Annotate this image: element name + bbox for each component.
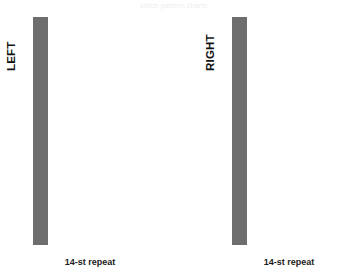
chart-cell-filled [47, 88, 48, 96]
chart-row [34, 182, 48, 190]
chart-row [233, 57, 247, 65]
chart-row [34, 190, 48, 198]
chart-row [233, 33, 247, 41]
chart-row [34, 221, 48, 229]
chart-cell-empty [246, 237, 247, 245]
chart-row [34, 96, 48, 104]
chart-cell-filled [47, 167, 48, 175]
chart-cell-empty [47, 237, 48, 245]
chart-right-rows [233, 18, 247, 245]
chart-row [34, 72, 48, 80]
chart-cell-filled [246, 151, 247, 159]
chart-row [233, 25, 247, 33]
chart-cell-empty [246, 174, 247, 182]
chart-row [233, 127, 247, 135]
chart-cell-empty [246, 57, 247, 65]
chart-row [233, 214, 247, 222]
chart-left-side-label: LEFT [4, 15, 18, 71]
chart-cell-filled [47, 41, 48, 49]
chart-row [233, 237, 247, 245]
chart-cell-filled [47, 119, 48, 127]
chart-cell-filled [47, 49, 48, 57]
chart-cell-filled [47, 135, 48, 143]
chart-cell-filled [47, 206, 48, 214]
chart-row [34, 104, 48, 112]
chart-row [34, 18, 48, 26]
chart-cell-filled [47, 112, 48, 120]
chart-cell-empty [246, 33, 247, 41]
chart-row [34, 206, 48, 214]
chart-row [233, 221, 247, 229]
chart-row [233, 96, 247, 104]
chart-cell-empty [246, 25, 247, 33]
chart-cell-filled [47, 229, 48, 237]
chart-cell-filled [246, 127, 247, 135]
chart-right-table [232, 17, 247, 245]
chart-row [233, 41, 247, 49]
chart-row [233, 119, 247, 127]
chart-row [233, 80, 247, 88]
chart-cell-filled [246, 229, 247, 237]
chart-cell-empty [246, 96, 247, 104]
chart-left-repeat-label: 14-st repeat [33, 257, 147, 267]
chart-row [34, 127, 48, 135]
chart-row [233, 198, 247, 206]
chart-row [34, 57, 48, 65]
chart-cell-filled [246, 221, 247, 229]
chart-left-rows [34, 18, 48, 245]
chart-row [34, 33, 48, 41]
chart-row [233, 49, 247, 57]
page-heading: stitch pattern charts [0, 0, 348, 12]
chart-cell-empty [47, 18, 48, 26]
chart-cell-empty [246, 159, 247, 167]
chart-left-table [33, 17, 48, 245]
chart-cell-filled [246, 167, 247, 175]
chart-row [233, 167, 247, 175]
chart-cell-empty [246, 80, 247, 88]
chart-row [233, 229, 247, 237]
chart-cell-filled [47, 143, 48, 151]
chart-cell-empty [246, 18, 247, 26]
chart-row [34, 198, 48, 206]
chart-row [233, 174, 247, 182]
chart-row [34, 159, 48, 167]
chart-row [34, 41, 48, 49]
chart-row [34, 112, 48, 120]
chart-row [34, 151, 48, 159]
chart-cell-filled [47, 221, 48, 229]
chart-cell-filled [47, 151, 48, 159]
chart-cell-empty [246, 206, 247, 214]
chart-right-repeat-label: 14-st repeat [232, 257, 346, 267]
chart-cell-filled [47, 214, 48, 222]
chart-row [34, 214, 48, 222]
chart-row [233, 206, 247, 214]
chart-cell-filled [246, 112, 247, 120]
chart-cell-filled [47, 57, 48, 65]
chart-cell-empty [47, 25, 48, 33]
chart-cell-filled [47, 96, 48, 104]
chart-row [233, 104, 247, 112]
chart-row [34, 229, 48, 237]
chart-right-side-label: RIGHT [203, 15, 217, 71]
chart-row [34, 65, 48, 73]
chart-cell-filled [47, 33, 48, 41]
chart-row [34, 174, 48, 182]
chart-row [233, 182, 247, 190]
chart-row [34, 49, 48, 57]
chart-cell-empty [47, 159, 48, 167]
chart-cell-filled [47, 198, 48, 206]
chart-row [34, 237, 48, 245]
chart-row [233, 112, 247, 120]
chart-row [34, 167, 48, 175]
chart-row [233, 18, 247, 26]
chart-row [34, 143, 48, 151]
chart-right-grid [232, 17, 247, 245]
chart-row [34, 88, 48, 96]
chart-cell-empty [246, 49, 247, 57]
chart-row [233, 143, 247, 151]
chart-cell-filled [47, 127, 48, 135]
chart-cell-empty [246, 190, 247, 198]
chart-cell-empty [246, 182, 247, 190]
chart-row [233, 65, 247, 73]
chart-cell-empty [246, 65, 247, 73]
